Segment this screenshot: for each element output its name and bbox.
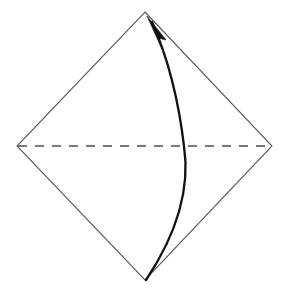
- figure-canvas: [0, 0, 285, 292]
- origami-diagram-figure: [0, 0, 285, 292]
